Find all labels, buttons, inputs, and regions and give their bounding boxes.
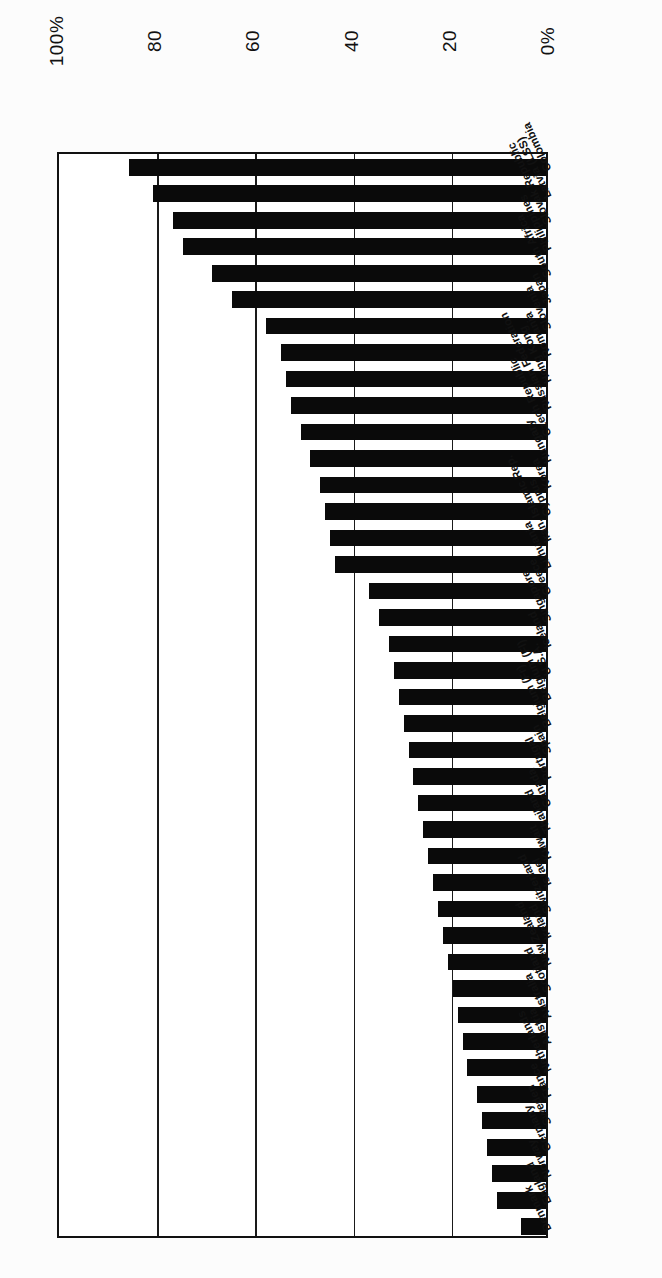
bar-row	[59, 185, 546, 202]
bar-row	[59, 530, 546, 547]
axis-tick-label: 40	[341, 1, 363, 81]
bar-row	[59, 901, 546, 918]
chart-page: 100%806040200% ColombiaLatvia (LSS)Slova…	[0, 0, 662, 1278]
bar-row	[59, 742, 546, 759]
bar-row	[59, 980, 546, 997]
plot-area	[57, 152, 548, 1238]
bar-row	[59, 344, 546, 361]
bar	[183, 238, 546, 255]
bar-row	[59, 424, 546, 441]
bar-row	[59, 583, 546, 600]
bar-row	[59, 212, 546, 229]
bar-row	[59, 821, 546, 838]
bar-row	[59, 768, 546, 785]
axis-tick-label: 100%	[46, 1, 68, 81]
bar-row	[59, 397, 546, 414]
bar-row	[59, 874, 546, 891]
value-axis: 100%806040200%	[0, 0, 662, 120]
bar	[301, 424, 547, 441]
axis-tick-label: 20	[439, 1, 461, 81]
bar-series	[59, 154, 546, 1236]
bar-row	[59, 450, 546, 467]
bar	[379, 609, 546, 626]
bar-row	[59, 477, 546, 494]
bar-row	[59, 848, 546, 865]
category-axis: ColombiaLatvia (LSS)Slovak RepublicPhili…	[548, 152, 662, 1272]
bar-row	[59, 636, 546, 653]
bar-row	[59, 689, 546, 706]
bar-row	[59, 318, 546, 335]
bar-row	[59, 1112, 546, 1129]
axis-tick-label: 60	[242, 1, 264, 81]
bar-row	[59, 159, 546, 176]
bar-row	[59, 1059, 546, 1076]
bar	[232, 291, 546, 308]
bar-row	[59, 556, 546, 573]
bar	[330, 530, 546, 547]
bar-row	[59, 1139, 546, 1156]
bar	[173, 212, 546, 229]
bar	[129, 159, 546, 176]
bar-row	[59, 238, 546, 255]
bar	[404, 715, 546, 732]
bar-row	[59, 609, 546, 626]
bar	[291, 397, 546, 414]
bar-row	[59, 1033, 546, 1050]
bar-row	[59, 1007, 546, 1024]
bar-row	[59, 1086, 546, 1103]
bar-row	[59, 954, 546, 971]
bar-row	[59, 715, 546, 732]
bar	[286, 371, 546, 388]
bar-row	[59, 1218, 546, 1235]
bar-row	[59, 662, 546, 679]
bar	[335, 556, 546, 573]
bar-row	[59, 371, 546, 388]
bar-row	[59, 291, 546, 308]
bar	[212, 265, 546, 282]
bar	[153, 185, 546, 202]
bar	[281, 344, 546, 361]
bar-row	[59, 795, 546, 812]
bar-row	[59, 927, 546, 944]
bar-row	[59, 503, 546, 520]
bar	[369, 583, 546, 600]
axis-tick-label: 0%	[537, 1, 559, 81]
bar-row	[59, 1165, 546, 1182]
bar-row	[59, 265, 546, 282]
axis-tick-label: 80	[144, 1, 166, 81]
bar-row	[59, 1192, 546, 1209]
bar	[325, 503, 546, 520]
